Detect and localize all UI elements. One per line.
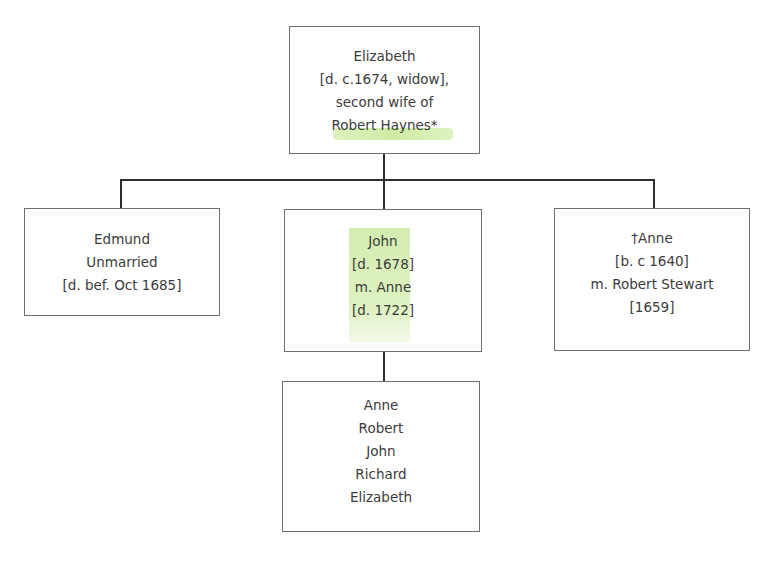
grandchild-elizabeth: Elizabeth: [350, 486, 412, 509]
root-line-name: Elizabeth: [353, 45, 415, 68]
connector-sibling-bar: [120, 179, 655, 181]
anne-line-spouse: m. Robert Stewart: [590, 273, 713, 296]
root-line-spouse: Robert Haynes*: [331, 114, 437, 137]
root-line-death: [d. c.1674, widow],: [320, 68, 449, 91]
john-line-spouse-death: [d. 1722]: [352, 299, 414, 322]
root-line-relation: second wife of: [336, 91, 434, 114]
edmund-line-death: [d. bef. Oct 1685]: [63, 274, 182, 297]
grandchild-anne: Anne: [364, 394, 399, 417]
anne-line-birth: [b. c 1640]: [615, 250, 689, 273]
john-line-spouse: m. Anne: [355, 276, 411, 299]
connector-to-anne: [653, 179, 655, 208]
edmund-line-status: Unmarried: [86, 251, 157, 274]
person-box-edmund: Edmund Unmarried [d. bef. Oct 1685]: [24, 208, 220, 316]
anne-line-name: †Anne: [631, 227, 672, 250]
grandchild-john: John: [366, 440, 395, 463]
connector-to-edmund: [120, 179, 122, 208]
children-of-john-box: Anne Robert John Richard Elizabeth: [282, 381, 480, 532]
person-box-anne: †Anne [b. c 1640] m. Robert Stewart [165…: [554, 208, 750, 351]
edmund-line-name: Edmund: [94, 228, 150, 251]
grandchild-richard: Richard: [355, 463, 406, 486]
john-line-name: John: [368, 230, 397, 253]
connector-to-john: [383, 179, 385, 209]
connector-root-down: [383, 153, 385, 180]
connector-john-to-children: [383, 351, 385, 381]
john-line-death: [d. 1678]: [352, 253, 414, 276]
grandchild-robert: Robert: [359, 417, 404, 440]
anne-line-marriage-year: [1659]: [630, 296, 675, 319]
